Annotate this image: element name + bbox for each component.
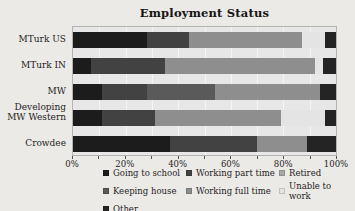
legend-label: Unable to work bbox=[289, 181, 349, 201]
legend-label: Other bbox=[113, 204, 138, 211]
bar-segment-working-part-time bbox=[147, 32, 189, 48]
legend-item-going-to-school: Going to school bbox=[103, 168, 186, 178]
plot-area bbox=[72, 26, 337, 156]
legend-label: Going to school bbox=[113, 168, 180, 178]
bar-segment-going-to-school bbox=[73, 84, 102, 100]
bar-segment-working-full-time bbox=[189, 32, 302, 48]
bar-segment-other bbox=[325, 110, 336, 126]
legend-swatch-icon bbox=[103, 206, 109, 211]
legend-swatch-icon bbox=[279, 170, 285, 176]
bar-segment-other bbox=[325, 32, 336, 48]
bar-row-mturk-us bbox=[73, 32, 336, 48]
bar-row-mw-western bbox=[73, 110, 336, 126]
bar-segment-going-to-school bbox=[73, 136, 170, 152]
category-label: MW Western bbox=[0, 109, 66, 125]
bar-segment-unable-to-work bbox=[302, 32, 326, 48]
bar-row-mw-developing bbox=[73, 84, 336, 100]
bar-segment-working-full-time bbox=[165, 58, 315, 74]
bar-segment-keeping-house bbox=[147, 84, 215, 100]
legend-row: Going to schoolWorking part timeRetired bbox=[103, 168, 353, 178]
bar-segment-working-part-time bbox=[170, 136, 257, 152]
bar-segment-going-to-school bbox=[73, 32, 147, 48]
bar-segment-working-full-time bbox=[155, 110, 281, 126]
legend-row: Other bbox=[103, 204, 353, 211]
legend-swatch-icon bbox=[279, 188, 285, 194]
employment-status-chart: Employment Status MTurk USMTurk INMW Dev… bbox=[0, 0, 355, 211]
legend-item-other: Other bbox=[103, 204, 186, 211]
x-axis-tick bbox=[310, 156, 311, 159]
bar-segment-working-part-time bbox=[102, 84, 147, 100]
legend-label: Keeping house bbox=[113, 186, 176, 196]
legend-label: Working part time bbox=[196, 168, 275, 178]
legend-label: Working full time bbox=[196, 186, 271, 196]
legend: Going to schoolWorking part timeRetiredK… bbox=[103, 168, 353, 211]
legend-swatch-icon bbox=[103, 188, 109, 194]
category-label: MTurk US bbox=[0, 31, 66, 47]
bar-segment-other bbox=[320, 84, 336, 100]
bar-row-crowdee bbox=[73, 136, 336, 152]
legend-item-keeping-house: Keeping house bbox=[103, 181, 186, 201]
bar-segment-working-part-time bbox=[91, 58, 165, 74]
bar-segment-unable-to-work bbox=[315, 58, 323, 74]
bar-segment-going-to-school bbox=[73, 58, 91, 74]
bar-segment-working-full-time bbox=[257, 136, 307, 152]
bar-segment-working-full-time bbox=[215, 84, 320, 100]
bar-segment-going-to-school bbox=[73, 110, 102, 126]
bar-row-mturk-in bbox=[73, 58, 336, 74]
x-axis-tick bbox=[151, 156, 152, 159]
bar-segment-working-part-time bbox=[102, 110, 155, 126]
legend-swatch-icon bbox=[186, 170, 192, 176]
legend-item-working-full-time: Working full time bbox=[186, 181, 279, 201]
legend-swatch-icon bbox=[103, 170, 109, 176]
legend-row: Keeping houseWorking full timeUnable to … bbox=[103, 181, 353, 201]
bar-segment-other bbox=[307, 136, 336, 152]
category-label: MTurk IN bbox=[0, 57, 66, 73]
bar-segment-unable-to-work bbox=[281, 110, 326, 126]
bar-segment-other bbox=[323, 58, 336, 74]
legend-item-working-part-time: Working part time bbox=[186, 168, 279, 178]
legend-item-retired: Retired bbox=[279, 168, 349, 178]
chart-title: Employment Status bbox=[72, 6, 337, 20]
x-axis-tick bbox=[204, 156, 205, 159]
x-axis-tick bbox=[98, 156, 99, 159]
category-label: Crowdee bbox=[0, 135, 66, 151]
legend-swatch-icon bbox=[186, 188, 192, 194]
x-axis-tick-label: 0% bbox=[55, 159, 89, 169]
x-axis-tick bbox=[257, 156, 258, 159]
legend-item-unable-to-work: Unable to work bbox=[279, 181, 349, 201]
legend-label: Retired bbox=[289, 168, 321, 178]
